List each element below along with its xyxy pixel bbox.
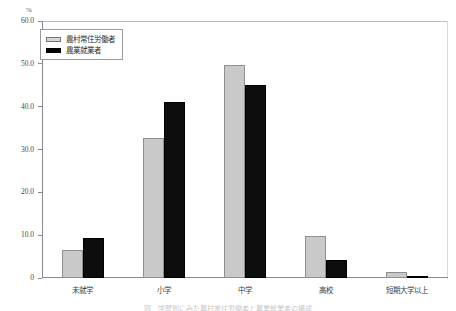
y-axis-tick-label: 10.0	[0, 230, 34, 240]
y-axis-tick-label: 60.0	[0, 16, 34, 26]
legend-item: 農村常住労働者	[46, 34, 115, 44]
bar-dark	[245, 85, 266, 278]
y-axis-tick	[38, 149, 42, 150]
y-axis-unit-label: %	[26, 6, 32, 14]
legend-swatch-light-icon	[46, 37, 61, 42]
bar-dark	[83, 238, 104, 278]
chart-figure: % 010.020.030.040.050.060.0 未就学小学中学高校短期大…	[0, 0, 456, 311]
bar-light	[386, 272, 407, 278]
legend-label: 農業就業者	[66, 46, 101, 55]
legend-item: 農業就業者	[46, 45, 115, 55]
bar-light	[224, 65, 245, 278]
y-axis-tick-label: 0	[0, 273, 34, 283]
x-axis-tick-label: 短期大学以上	[386, 284, 428, 295]
bar-dark	[164, 102, 185, 278]
x-axis-tick-label: 小学	[157, 284, 171, 295]
bar-dark	[326, 260, 347, 278]
y-axis-tick-label: 50.0	[0, 59, 34, 69]
y-axis-tick	[38, 63, 42, 64]
y-axis-tick	[38, 192, 42, 193]
y-axis-tick-label: 20.0	[0, 187, 34, 197]
bar-dark	[407, 276, 428, 278]
y-axis-tick	[38, 278, 42, 279]
legend-swatch-dark-icon	[46, 48, 61, 53]
x-axis-tick-label: 未就学	[72, 284, 93, 295]
y-axis-tick-label: 40.0	[0, 102, 34, 112]
y-axis-tick	[38, 21, 42, 22]
y-axis-tick	[38, 235, 42, 236]
y-axis-tick-label: 30.0	[0, 145, 34, 155]
figure-caption: 図 学歴別にみた農村常住労働者と農業就業者の構成	[0, 303, 456, 311]
bar-light	[143, 138, 164, 278]
y-axis-tick	[38, 106, 42, 107]
x-axis-tick-label: 中学	[238, 284, 252, 295]
legend-label: 農村常住労働者	[66, 35, 115, 44]
legend: 農村常住労働者 農業就業者	[40, 29, 123, 60]
bar-light	[62, 250, 83, 278]
x-axis-tick-label: 高校	[319, 284, 333, 295]
bar-light	[305, 236, 326, 278]
